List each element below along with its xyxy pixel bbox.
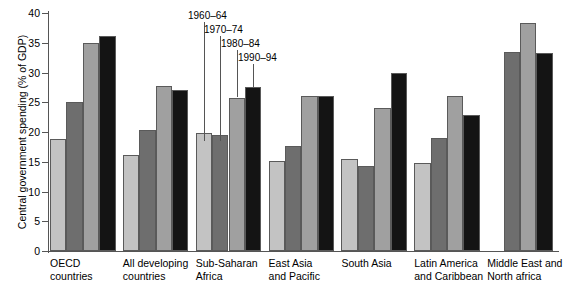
bar xyxy=(341,159,357,251)
bar-group xyxy=(485,13,558,251)
x-axis-line xyxy=(48,251,559,252)
y-axis-tick-label: 40 xyxy=(0,8,40,18)
bar xyxy=(139,130,155,251)
y-axis-tick-label-text: 15 xyxy=(18,157,40,167)
bar xyxy=(463,115,479,251)
y-axis-tick-label-text: 25 xyxy=(18,97,40,107)
bar xyxy=(156,86,172,251)
bar xyxy=(229,98,245,252)
y-axis-tick-label: 15 xyxy=(0,157,40,167)
legend-label-1990-94: 1990–94 xyxy=(238,52,277,63)
bar xyxy=(520,23,536,251)
x-axis-category-label: Middle East andNorth africa xyxy=(487,257,567,283)
legend-leader-line xyxy=(253,64,254,88)
bar xyxy=(99,36,115,251)
group-divider xyxy=(193,13,194,251)
bar xyxy=(50,139,66,251)
bar xyxy=(196,133,212,251)
bar xyxy=(447,96,463,251)
legend-label-1970-74: 1970–74 xyxy=(204,24,243,35)
y-axis-tick-mark xyxy=(42,251,48,252)
bar xyxy=(414,163,430,251)
legend-label-1980-84: 1980–84 xyxy=(221,38,260,49)
y-axis-tick-label-text: 35 xyxy=(18,38,40,48)
bar-group xyxy=(48,13,121,251)
y-axis-tick-label-text: 20 xyxy=(18,127,40,137)
x-axis-category-label-line: North africa xyxy=(487,270,567,283)
bar xyxy=(172,90,188,251)
bar xyxy=(66,102,82,251)
bar xyxy=(431,138,447,251)
bar xyxy=(391,73,407,252)
y-axis-tick-label: 0 xyxy=(0,246,40,256)
x-axis-category-label-line: and Pacific xyxy=(269,270,356,283)
y-axis-tick-label-text: 40 xyxy=(18,8,40,18)
y-axis-tick-label-text: 10 xyxy=(18,187,40,197)
x-axis-category-label-line: Middle East and xyxy=(487,257,567,270)
group-divider xyxy=(266,13,267,251)
group-divider xyxy=(120,13,121,251)
bar xyxy=(212,135,228,251)
bar xyxy=(123,155,139,251)
y-axis-tick-label-text: 30 xyxy=(18,68,40,78)
plot-area xyxy=(48,13,558,251)
legend-leader-line xyxy=(220,36,221,141)
bar-group xyxy=(267,13,340,251)
bar xyxy=(318,96,334,251)
group-divider xyxy=(338,13,339,251)
y-axis-tick-label-text: 0 xyxy=(18,246,40,256)
legend-label-1960-64: 1960–64 xyxy=(188,10,227,21)
bar xyxy=(536,53,552,251)
y-axis-tick-label: 20 xyxy=(0,127,40,137)
bar xyxy=(374,108,390,251)
y-axis-tick-label-text: 5 xyxy=(18,216,40,226)
bar-group xyxy=(412,13,485,251)
bar xyxy=(301,96,317,251)
bar xyxy=(285,146,301,251)
bar-group xyxy=(121,13,194,251)
bar xyxy=(358,166,374,251)
bar xyxy=(504,52,520,251)
y-axis-tick-label: 10 xyxy=(0,187,40,197)
bar xyxy=(83,43,99,251)
y-axis-tick-label: 5 xyxy=(0,216,40,226)
bar xyxy=(245,87,261,251)
group-divider xyxy=(411,13,412,251)
group-divider xyxy=(484,13,485,251)
y-axis-tick-label: 25 xyxy=(0,97,40,107)
bar xyxy=(269,161,285,251)
bar-group xyxy=(339,13,412,251)
legend-leader-line xyxy=(204,22,205,141)
y-axis-tick-label: 35 xyxy=(0,38,40,48)
y-axis-tick-label: 30 xyxy=(0,68,40,78)
